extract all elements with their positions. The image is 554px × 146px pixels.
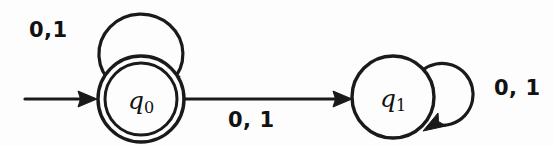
transition-label-self-loop-q1: 0, 1: [494, 78, 541, 99]
transition-label-q0-to-q1: 0, 1: [228, 110, 275, 131]
state-label-q0: q0: [128, 88, 154, 113]
edge-q0-to-q1: [184, 91, 352, 107]
start-arrow: [25, 91, 97, 107]
start-arrow-head: [78, 91, 97, 107]
transition-label-self-loop-q0: 0,1: [29, 20, 68, 41]
automaton-diagram: 0,1 0, 1 0, 1 q0 q1: [0, 0, 554, 146]
edge-q0-to-q1-arrow-head: [333, 91, 352, 107]
state-label-q1-subscript: 1: [396, 96, 406, 115]
state-label-q1: q1: [380, 86, 406, 111]
state-label-q0-main: q: [128, 86, 144, 115]
state-label-q1-main: q: [380, 84, 396, 113]
automaton-canvas: [0, 0, 554, 146]
state-label-q0-subscript: 0: [144, 98, 154, 117]
